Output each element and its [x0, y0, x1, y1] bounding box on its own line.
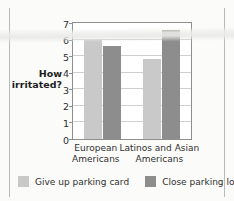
- bar: [84, 40, 102, 139]
- x-axis-category-label: Latinos and AsianAmericans: [120, 143, 200, 164]
- x-axis-category-line: Americans: [120, 154, 200, 165]
- y-tick-label: 4: [55, 69, 69, 78]
- chart-legend: Give up parking cardClose parking lot: [18, 176, 218, 187]
- legend-item: Close parking lot: [145, 176, 234, 187]
- legend-label: Close parking lot: [162, 177, 234, 187]
- y-tick-label: 1: [55, 119, 69, 128]
- chart-figure: How irritated? 01234567 EuropeanAmerican…: [0, 0, 234, 201]
- y-tick-label: 0: [55, 136, 69, 145]
- legend-label: Give up parking card: [35, 177, 129, 187]
- legend-item: Give up parking card: [18, 176, 129, 187]
- x-axis-labels: EuropeanAmericansLatinos and AsianAmeric…: [72, 143, 192, 164]
- bar: [103, 46, 121, 139]
- legend-swatch: [145, 176, 156, 187]
- bar: [143, 59, 161, 139]
- y-tick-label: 5: [55, 53, 69, 62]
- legend-swatch: [18, 176, 29, 187]
- plot-area: [72, 22, 192, 140]
- page-margin-rule-right: [224, 8, 225, 197]
- y-tick-label: 2: [55, 102, 69, 111]
- y-axis-ticks: 01234567: [52, 22, 69, 140]
- x-axis-category-line: Latinos and Asian: [120, 143, 200, 154]
- x-axis-category-line: European: [72, 143, 120, 154]
- page-margin-rule-left: [9, 8, 10, 197]
- y-tick-label: 7: [55, 20, 69, 29]
- y-tick-label: 6: [55, 36, 69, 45]
- x-axis-category-label: EuropeanAmericans: [72, 143, 120, 164]
- x-axis-category-line: Americans: [72, 154, 120, 165]
- bar: [162, 30, 180, 139]
- y-tick-label: 3: [55, 86, 69, 95]
